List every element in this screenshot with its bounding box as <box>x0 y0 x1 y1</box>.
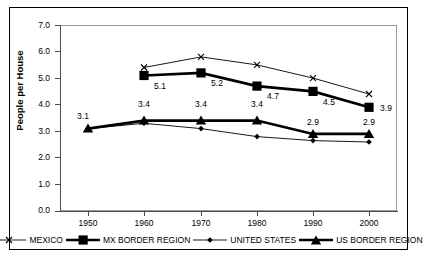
legend-item-mexico[interactable]: MEXICO <box>0 234 66 246</box>
series-line-us-border-region <box>88 121 369 134</box>
legend-label-us-border-region: US BORDER REGION <box>333 235 425 245</box>
chart-legend: MEXICO MX BORDER REGION UNITED STATES <box>0 233 418 247</box>
legend-square-marker-icon <box>66 234 100 246</box>
data-label-us-border-2000: 2.9 <box>358 117 380 127</box>
data-label-us-border-1950: 3.1 <box>72 111 94 121</box>
data-label-us-border-1980: 3.4 <box>246 99 268 109</box>
legend-label-mx-border-region: MX BORDER REGION <box>100 235 193 245</box>
data-label-mx-border-1990: 4.5 <box>318 97 340 107</box>
data-label-us-border-1990: 2.9 <box>302 117 324 127</box>
data-label-mx-border-1970: 5.2 <box>206 78 228 88</box>
legend-label-united-states: UNITED STATES <box>227 235 299 245</box>
legend-triangle-marker-icon <box>299 234 333 246</box>
legend-item-mx-border-region[interactable]: MX BORDER REGION <box>66 234 193 246</box>
legend-x-marker-icon <box>0 234 26 246</box>
legend-item-us-border-region[interactable]: US BORDER REGION <box>299 234 425 246</box>
legend-item-united-states[interactable]: UNITED STATES <box>193 234 299 246</box>
legend-diamond-marker-icon <box>193 234 227 246</box>
data-label-mx-border-1960: 5.1 <box>149 81 171 91</box>
data-label-us-border-1960: 3.4 <box>133 99 155 109</box>
data-label-mx-border-2000: 3.9 <box>375 103 397 113</box>
data-label-us-border-1970: 3.4 <box>190 99 212 109</box>
legend-label-mexico: MEXICO <box>26 235 66 245</box>
